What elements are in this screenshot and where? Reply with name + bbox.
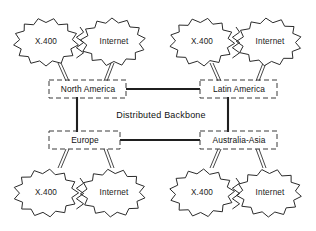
diagram-canvas: X.400 Internet X.400 Internet X.400 Inte… [0,0,316,231]
leg-eu-internet-b [107,149,114,168]
region-label-australia-asia: Australia-Asia [212,135,265,145]
leg-aa-internet-a [256,149,263,168]
region-label-europe: Europe [71,135,99,145]
backbone-caption: Distributed Backbone [116,110,206,120]
cloud-label-top-right-internet: Internet [256,37,286,46]
network-diagram: X.400 Internet X.400 Internet X.400 Inte… [0,0,316,231]
leg-la-internet-a [256,63,263,81]
leg-na-internet-b [107,63,114,81]
leg-na-internet-a [104,63,111,81]
cloud-label-top-left-x400: X.400 [35,37,57,46]
cloud-label-bottom-left-x400: X.400 [35,188,57,197]
cloud-label-bottom-left-internet: Internet [100,188,130,197]
cloud-label-top-right-x400: X.400 [191,37,213,46]
cloud-label-bottom-right-internet: Internet [256,188,286,197]
leg-eu-internet-a [104,149,111,168]
leg-aa-internet-b [259,149,266,168]
seam-top-left-icon [76,27,83,58]
cloud-label-bottom-right-x400: X.400 [191,188,213,197]
cloud-label-top-left-internet: Internet [100,37,130,46]
region-label-north-america: North America [61,84,116,94]
region-label-latin-america: Latin America [213,84,265,94]
